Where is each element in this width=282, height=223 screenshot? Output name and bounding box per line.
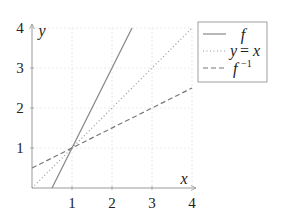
x-tick-3: 3 — [148, 195, 156, 211]
grid — [32, 28, 192, 188]
x-axis-label: x — [179, 170, 187, 187]
legend-yx-x: x — [252, 42, 260, 59]
legend-finv-sup: −1 — [241, 58, 252, 69]
chart: 1 2 3 4 1 2 3 4 x y f y = x f −1 — [0, 0, 282, 223]
y-tick-1: 1 — [16, 140, 24, 156]
y-axis-label: y — [36, 22, 46, 40]
x-tick-4: 4 — [188, 195, 196, 211]
x-tick-2: 2 — [108, 195, 116, 211]
plot-svg: 1 2 3 4 1 2 3 4 x y f y = x f −1 — [0, 0, 282, 223]
legend-yx-y: y — [228, 42, 238, 60]
legend: f y = x f −1 — [198, 22, 267, 82]
y-tick-3: 3 — [16, 60, 24, 76]
x-tick-1: 1 — [68, 195, 76, 211]
legend-yx-eq: = — [240, 42, 249, 59]
y-tick-4: 4 — [16, 20, 24, 36]
y-tick-2: 2 — [16, 100, 24, 116]
